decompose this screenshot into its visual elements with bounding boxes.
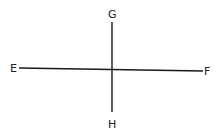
label-e: E	[10, 62, 17, 75]
label-f: F	[204, 65, 210, 78]
label-h: H	[108, 118, 116, 131]
label-g: G	[108, 8, 117, 21]
line-ef	[19, 68, 203, 71]
diagram-canvas: E F G H	[0, 0, 218, 133]
